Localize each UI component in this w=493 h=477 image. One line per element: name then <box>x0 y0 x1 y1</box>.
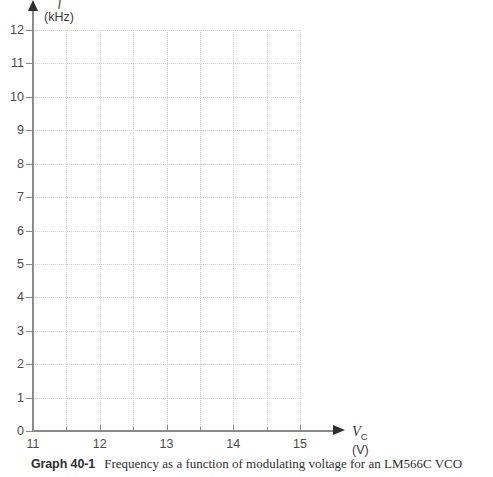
x-axis-tick-label: 15 <box>285 438 315 451</box>
gridline-horizontal <box>33 130 300 131</box>
y-axis-tick <box>26 431 33 432</box>
x-axis-minor-tick <box>133 427 134 432</box>
gridline-vertical <box>200 30 201 431</box>
graph-figure: 01234567891011121112131415 f (kHz) VC (V… <box>0 0 493 477</box>
y-axis-tick <box>26 264 33 265</box>
y-axis-tick <box>26 130 33 131</box>
gridline-vertical <box>267 30 268 431</box>
y-axis-tick-label: 10 <box>2 91 24 104</box>
gridline-horizontal <box>33 164 300 165</box>
gridline-horizontal <box>33 331 300 332</box>
x-axis-tick-label: 11 <box>18 438 48 451</box>
y-axis-tick <box>26 30 33 31</box>
x-axis-minor-tick <box>66 427 67 432</box>
gridline-horizontal <box>33 297 300 298</box>
y-axis-tick-label: 7 <box>2 191 24 204</box>
x-axis-tick <box>167 425 168 432</box>
y-axis-tick <box>26 297 33 298</box>
y-axis-tick-label: 3 <box>2 325 24 338</box>
y-axis-tick-label: 8 <box>2 158 24 171</box>
y-axis-tick-label: 12 <box>2 24 24 37</box>
y-axis-tick <box>26 197 33 198</box>
y-axis-tick-label: 0 <box>2 425 24 438</box>
y-axis-tick-label: 9 <box>2 124 24 137</box>
x-axis-arrow-icon <box>333 425 345 435</box>
y-axis-tick-label: 1 <box>2 392 24 405</box>
y-axis-line <box>32 8 34 432</box>
gridline-vertical <box>66 30 67 431</box>
y-axis-arrow-icon <box>28 0 38 11</box>
y-axis-tick <box>26 364 33 365</box>
x-axis-minor-tick <box>200 427 201 432</box>
y-axis-tick <box>26 63 33 64</box>
x-axis-tick-label: 13 <box>152 438 182 451</box>
gridline-horizontal <box>33 97 300 98</box>
y-axis-tick <box>26 398 33 399</box>
gridline-vertical <box>233 30 234 431</box>
gridline-vertical <box>133 30 134 431</box>
gridline-horizontal <box>33 197 300 198</box>
gridline-horizontal <box>33 231 300 232</box>
gridline-vertical <box>300 30 301 431</box>
figure-caption: Graph 40-1Frequency as a function of mod… <box>0 456 493 472</box>
x-axis-tick <box>100 425 101 432</box>
x-axis-line <box>32 430 335 432</box>
x-axis-symbol-subscript: C <box>361 431 368 442</box>
y-axis-tick-label: 4 <box>2 291 24 304</box>
gridline-horizontal <box>33 63 300 64</box>
gridline-vertical <box>100 30 101 431</box>
x-axis-tick <box>233 425 234 432</box>
y-axis-tick-label: 6 <box>2 225 24 238</box>
x-axis-tick-label: 14 <box>218 438 248 451</box>
x-axis-tick <box>300 425 301 432</box>
caption-label: Graph 40-1 <box>31 457 95 471</box>
x-axis-minor-tick <box>267 427 268 432</box>
gridline-horizontal <box>33 398 300 399</box>
y-axis-unit: (kHz) <box>44 10 74 24</box>
y-axis-title: f (kHz) <box>44 0 74 24</box>
x-axis-title: VC (V) <box>352 423 369 457</box>
caption-text: Frequency as a function of modulating vo… <box>104 456 462 471</box>
y-axis-tick <box>26 231 33 232</box>
y-axis-tick <box>26 164 33 165</box>
plot-grid-area <box>33 30 300 431</box>
y-axis-tick <box>26 331 33 332</box>
x-axis-symbol: VC <box>352 423 369 443</box>
gridline-horizontal <box>33 264 300 265</box>
y-axis-tick-label: 5 <box>2 258 24 271</box>
y-axis-tick-label: 2 <box>2 358 24 371</box>
x-axis-tick-label: 12 <box>85 438 115 451</box>
y-axis-symbol: f <box>44 0 74 10</box>
y-axis-tick-label: 11 <box>2 57 24 70</box>
x-axis-symbol-letter: V <box>352 423 361 439</box>
gridline-horizontal <box>33 30 300 31</box>
gridline-horizontal <box>33 364 300 365</box>
y-axis-tick <box>26 97 33 98</box>
x-axis-tick <box>33 425 34 432</box>
gridline-vertical <box>167 30 168 431</box>
